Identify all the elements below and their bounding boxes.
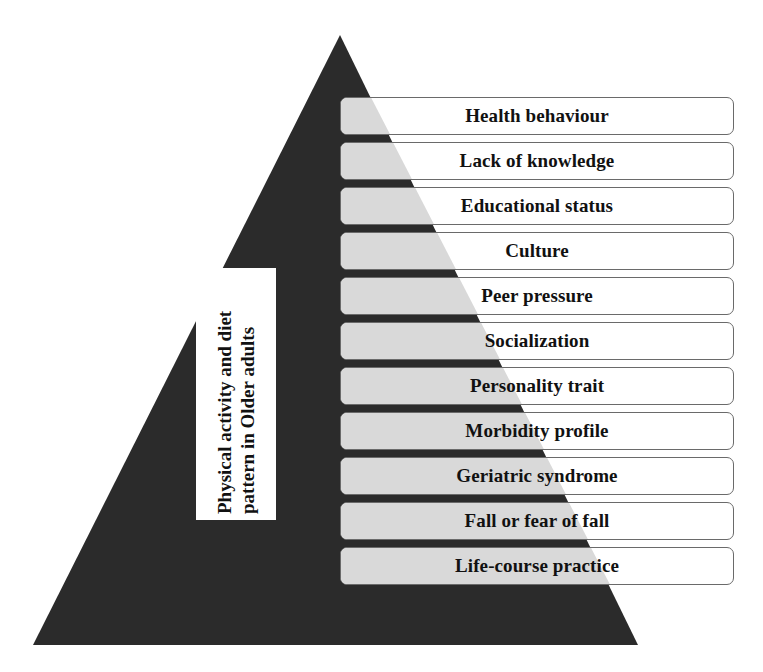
center-label: Physical activity and diet pattern in Ol… [213,274,259,514]
pyramid-level-4: Culture [340,232,734,270]
pyramid-level-9: Geriatric syndrome [340,457,734,495]
pyramid-level-10: Fall or fear of fall [340,502,734,540]
level-label: Personality trait [341,368,733,404]
pyramid-level-11: Life-course practice [340,547,734,585]
level-label: Culture [341,233,733,269]
level-label: Educational status [341,188,733,224]
center-label-box: Physical activity and diet pattern in Ol… [196,268,276,520]
level-label: Fall or fear of fall [341,503,733,539]
level-label: Geriatric syndrome [341,458,733,494]
level-label: Socialization [341,323,733,359]
level-label: Peer pressure [341,278,733,314]
level-label: Life-course practice [341,548,733,584]
pyramid-level-8: Morbidity profile [340,412,734,450]
level-label: Lack of knowledge [341,143,733,179]
pyramid-level-5: Peer pressure [340,277,734,315]
level-label: Health behaviour [341,98,733,134]
pyramid-level-1: Health behaviour [340,97,734,135]
pyramid-level-6: Socialization [340,322,734,360]
pyramid-level-7: Personality trait [340,367,734,405]
level-label: Morbidity profile [341,413,733,449]
pyramid-level-2: Lack of knowledge [340,142,734,180]
pyramid-level-3: Educational status [340,187,734,225]
